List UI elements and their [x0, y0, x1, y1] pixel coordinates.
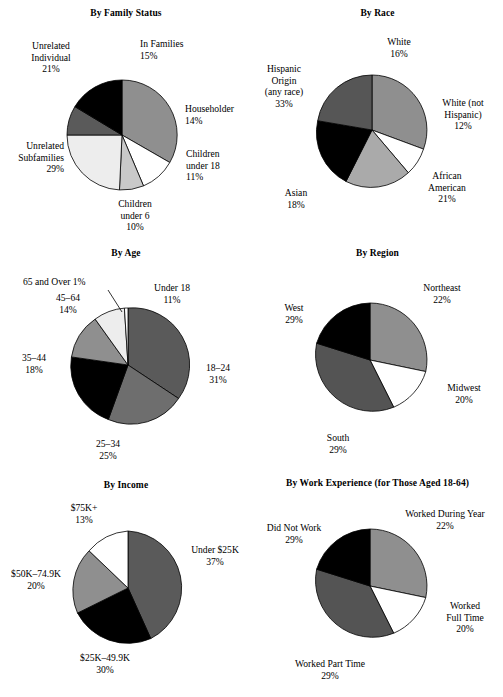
- label-unrelated-individual: Unrelated Individual 21%: [12, 40, 90, 75]
- chart-panel-family-status: By Family Status In Families 15% Househo…: [0, 0, 252, 240]
- label-did-not-work: Did Not Work 29%: [252, 522, 336, 545]
- label-35-44-name: 35–44: [6, 352, 62, 364]
- label-35-44: 35–44 18%: [6, 352, 62, 375]
- chart-title-region: By Region: [252, 248, 503, 258]
- label-unrelated-subfamilies: Unrelated Subfamilies 29%: [0, 140, 64, 175]
- label-did-not-work-name: Did Not Work: [252, 522, 336, 534]
- label-worked-full-time-name1: Worked: [432, 600, 498, 612]
- label-65-and-over: 65 and Over 1%: [23, 276, 86, 288]
- label-unrelated-subfamilies-name1: Unrelated: [0, 140, 64, 152]
- label-hispanic-origin-name2: Origin: [252, 75, 316, 87]
- chart-title-income: By Income: [0, 480, 252, 490]
- chart-panel-work-experience: By Work Experience (for Those Aged 18-64…: [252, 472, 503, 697]
- label-householder-pct: 14%: [185, 115, 234, 127]
- pie-svg-work-experience: [312, 528, 428, 644]
- chart-panel-income: By Income $75K+ 13% $50K–74.9K 20% $25K–…: [0, 472, 252, 697]
- label-west: West 29%: [266, 302, 322, 325]
- label-worked-full-time: Worked Full Time 20%: [432, 600, 498, 635]
- label-25-34-pct: 25%: [78, 450, 138, 462]
- label-south: South 29%: [308, 432, 368, 455]
- label-unrelated-subfamilies-name2: Subfamilies: [0, 152, 64, 164]
- chart-title-work-experience: By Work Experience (for Those Aged 18-64…: [252, 478, 503, 488]
- label-45-64: 45–64 14%: [38, 292, 98, 315]
- label-18-24: 18–24 31%: [190, 362, 246, 385]
- chart-title-race: By Race: [252, 8, 503, 18]
- leader-line-65-and-over: [108, 290, 122, 312]
- label-under-25k: Under $25K 37%: [178, 544, 252, 567]
- label-18-24-pct: 31%: [190, 374, 246, 386]
- label-35-44-pct: 18%: [6, 364, 62, 376]
- label-25k-49k-pct: 30%: [63, 664, 147, 676]
- label-in-families-name: In Families: [140, 38, 183, 50]
- label-worked-part-time: Worked Part Time 29%: [274, 658, 386, 681]
- pie-svg-income: [70, 530, 186, 646]
- pie-chart-grid: By Family Status In Families 15% Househo…: [0, 0, 503, 697]
- label-worked-during-year: Worked During Year 22%: [386, 508, 503, 531]
- label-worked-during-year-name: Worked During Year: [386, 508, 503, 520]
- label-children-under-6-pct: 10%: [100, 221, 170, 233]
- label-asian-name: Asian: [266, 187, 326, 199]
- label-children-under-6: Children under 6 10%: [100, 198, 170, 233]
- label-white-not-hispanic-name2: Hispanic): [427, 109, 499, 121]
- label-african-american-name1: African: [412, 170, 482, 182]
- label-unrelated-individual-name1: Unrelated: [12, 40, 90, 52]
- label-50k-74k-name: $50K–74.9K: [0, 568, 72, 580]
- label-worked-full-time-name2: Full Time: [432, 612, 498, 624]
- label-children-under-18-pct: 11%: [186, 171, 220, 183]
- label-25k-49k: $25K–49.9K 30%: [63, 652, 147, 675]
- pie-region: [312, 302, 428, 418]
- label-children-under-18: Children under 18 11%: [186, 148, 220, 183]
- label-worked-during-year-pct: 22%: [386, 520, 503, 532]
- label-65-and-over-name: 65 and Over 1%: [23, 276, 86, 287]
- label-18-24-name: 18–24: [190, 362, 246, 374]
- slice-children-under-6: [67, 135, 122, 190]
- label-white-not-hispanic-name1: White (not: [427, 97, 499, 109]
- label-white-not-hispanic: White (not Hispanic) 12%: [427, 97, 499, 132]
- chart-title-age: By Age: [0, 248, 252, 258]
- label-under-25k-name: Under $25K: [178, 544, 252, 556]
- chart-title-family-status: By Family Status: [0, 8, 252, 18]
- label-asian-pct: 18%: [266, 199, 326, 211]
- label-in-families: In Families 15%: [140, 38, 183, 61]
- label-midwest-pct: 20%: [430, 394, 498, 406]
- label-northeast: Northeast 22%: [402, 282, 482, 305]
- label-did-not-work-pct: 29%: [252, 534, 336, 546]
- label-under-18-name: Under 18: [136, 282, 208, 294]
- label-white: White 16%: [366, 36, 432, 59]
- label-northeast-pct: 22%: [402, 294, 482, 306]
- label-45-64-name: 45–64: [38, 292, 98, 304]
- label-25-34-name: 25–34: [78, 438, 138, 450]
- label-african-american: African American 21%: [412, 170, 482, 205]
- label-children-under-6-name2: under 6: [100, 210, 170, 222]
- label-75k-plus-pct: 13%: [52, 514, 116, 526]
- pie-svg-region: [312, 302, 428, 418]
- pie-work-experience: [312, 528, 428, 644]
- label-west-name: West: [266, 302, 322, 314]
- label-white-not-hispanic-pct: 12%: [427, 120, 499, 132]
- label-white-pct: 16%: [366, 48, 432, 60]
- label-worked-part-time-name: Worked Part Time: [274, 658, 386, 670]
- label-50k-74k-pct: 20%: [0, 580, 72, 592]
- label-householder: Householder 14%: [185, 103, 234, 126]
- slice-northeast: [370, 303, 427, 372]
- slice-worked-during-year: [370, 529, 427, 598]
- label-75k-plus: $75K+ 13%: [52, 502, 116, 525]
- label-children-under-18-name1: Children: [186, 148, 220, 160]
- label-under-25k-pct: 37%: [178, 556, 252, 568]
- label-unrelated-subfamilies-pct: 29%: [0, 163, 64, 175]
- label-northeast-name: Northeast: [402, 282, 482, 294]
- label-25-34: 25–34 25%: [78, 438, 138, 461]
- label-hispanic-origin-pct: 33%: [252, 98, 316, 110]
- chart-panel-region: By Region Northeast 22% Midwest 20% Sout…: [252, 240, 503, 472]
- pie-income: [70, 530, 186, 646]
- label-african-american-pct: 21%: [412, 193, 482, 205]
- label-midwest-name: Midwest: [430, 382, 498, 394]
- label-midwest: Midwest 20%: [430, 382, 498, 405]
- label-hispanic-origin-name3: (any race): [252, 86, 316, 98]
- label-african-american-name2: American: [412, 182, 482, 194]
- label-white-name: White: [366, 36, 432, 48]
- pie-svg-family-status: [66, 79, 178, 191]
- label-under-18: Under 18 11%: [136, 282, 208, 305]
- label-unrelated-individual-pct: 21%: [12, 63, 90, 75]
- pie-family-status: [66, 79, 178, 191]
